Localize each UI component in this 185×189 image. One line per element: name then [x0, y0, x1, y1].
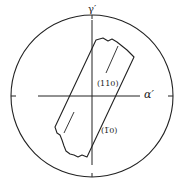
plane-1bar10-label: (1̅0) — [101, 127, 117, 135]
strip-region — [55, 38, 134, 157]
alpha-axis-label: α′ — [144, 89, 154, 100]
trace-line-lower — [64, 112, 74, 133]
plane-110-label: (110) — [97, 80, 119, 88]
pole-figure-diagram: γ′ α′ (110) (1̅0) — [0, 0, 185, 189]
trace-line-upper — [106, 46, 118, 73]
diagram-svg — [0, 0, 185, 189]
gamma-axis-label: γ′ — [88, 4, 96, 14]
